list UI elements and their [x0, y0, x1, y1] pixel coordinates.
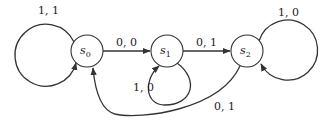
transition-label: 0, 1	[196, 36, 217, 49]
transition-label: 1, 1	[38, 4, 59, 17]
state-subscript: 0	[86, 50, 91, 59]
transition-label: 1, 0	[133, 81, 154, 94]
transition-label: 0, 1	[214, 100, 235, 113]
transition-s1-s2: 0, 1	[183, 36, 230, 51]
state-s2: s2	[231, 35, 263, 67]
state-s0: s0	[71, 35, 103, 67]
transition-label: 1, 0	[278, 6, 299, 19]
transition-label: 0, 0	[116, 36, 137, 49]
transition-s2-s0: 0, 1	[93, 66, 240, 116]
transition-s2-s2: 1, 0	[259, 6, 318, 80]
state-s1: s1	[151, 35, 183, 67]
transition-s0-s0: 1, 1	[15, 4, 76, 86]
transition-s0-s1: 0, 0	[103, 36, 150, 51]
state-subscript: 2	[246, 50, 251, 59]
state-subscript: 1	[166, 50, 171, 59]
state-diagram: 1, 1 0, 0 1, 0 0, 1 1, 0 0, 1 s0 s1 s2	[0, 0, 331, 123]
transition-s1-s1: 1, 0	[133, 63, 190, 105]
